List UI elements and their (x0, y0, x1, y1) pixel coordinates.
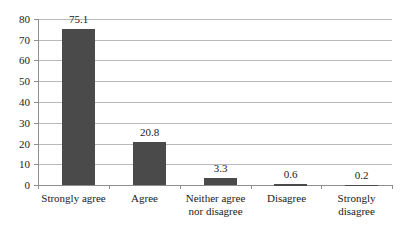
y-tick-mark-70 (34, 40, 38, 41)
y-tick-mark-40 (34, 102, 38, 103)
y-tick-mark-50 (34, 81, 38, 82)
x-category-label-strongly-disagree: Strongly disagree (319, 192, 394, 218)
x-tick-mark-2 (180, 185, 181, 189)
y-tick-label-20: 20 (19, 139, 30, 150)
y-tick-label-10: 10 (19, 159, 30, 170)
y-tick-label-80: 80 (19, 14, 30, 25)
bar-value-agree: 20.8 (119, 127, 180, 138)
x-category-label-neither-agree-nor-disagree: Neither agree nor disagree (178, 192, 253, 218)
x-tick-mark-5 (392, 185, 393, 189)
bar-value-disagree: 0.6 (260, 169, 321, 180)
x-tick-mark-1 (109, 185, 110, 189)
y-tick-mark-60 (34, 60, 38, 61)
bar-value-neither-agree-nor-disagree: 3.3 (190, 163, 251, 174)
bar-strongly-disagree (345, 185, 378, 186)
y-tick-label-60: 60 (19, 55, 30, 66)
bar-value-strongly-disagree: 0.2 (331, 170, 392, 181)
bar-neither-agree-nor-disagree (204, 178, 237, 185)
y-axis-line (38, 19, 39, 185)
bar-value-strongly-agree: 75.1 (48, 14, 109, 25)
y-tick-label-50: 50 (19, 76, 30, 87)
y-tick-mark-80 (34, 19, 38, 20)
bar-chart: 80 70 60 50 40 30 20 10 0 75.1 20.8 3.3 … (0, 0, 413, 229)
x-category-label-agree: Agree (107, 192, 182, 205)
y-tick-label-0: 0 (25, 180, 31, 191)
x-axis-line (38, 185, 392, 186)
y-tick-label-30: 30 (19, 118, 30, 129)
y-tick-mark-10 (34, 164, 38, 165)
x-category-label-strongly-agree: Strongly agree (36, 192, 111, 205)
bar-agree (133, 142, 166, 185)
x-category-label-disagree: Disagree (249, 192, 324, 205)
y-tick-mark-30 (34, 123, 38, 124)
bar-disagree (274, 184, 307, 186)
bar-strongly-agree (62, 29, 95, 185)
y-tick-label-70: 70 (19, 35, 30, 46)
x-tick-mark-0 (38, 185, 39, 189)
y-tick-mark-20 (34, 144, 38, 145)
x-tick-mark-3 (251, 185, 252, 189)
x-tick-mark-4 (321, 185, 322, 189)
y-tick-label-40: 40 (19, 97, 30, 108)
